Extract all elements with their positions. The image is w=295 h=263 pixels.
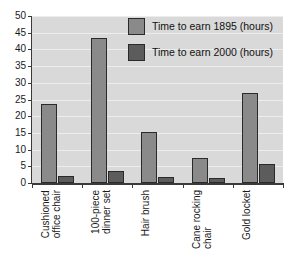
chart-legend: Time to earn 1895 (hours) Time to earn 2…	[128, 18, 273, 70]
y-axis-tick-label: 45	[0, 28, 26, 38]
legend-item: Time to earn 1895 (hours)	[128, 18, 273, 35]
y-axis-tick-mark	[28, 49, 32, 50]
y-axis-tick-mark	[28, 133, 32, 134]
y-axis-tick-label: 5	[0, 161, 26, 171]
legend-swatch-2000-icon	[128, 44, 145, 61]
bar	[108, 171, 124, 183]
y-axis-tick-mark	[28, 33, 32, 34]
y-axis-tick-mark	[28, 166, 32, 167]
bar-chart: 05101520253035404550 Cushioned office ch…	[0, 0, 295, 263]
legend-swatch-1895-icon	[128, 18, 145, 35]
y-axis-tick-label: 40	[0, 44, 26, 54]
x-axis-label: Gold locket	[241, 190, 252, 240]
y-axis-tick-label: 35	[0, 61, 26, 71]
y-axis-tick-mark	[28, 150, 32, 151]
y-axis-tick-label: 25	[0, 95, 26, 105]
y-axis-tick-mark	[28, 66, 32, 67]
x-axis-tick-mark	[82, 183, 83, 188]
y-axis-tick-mark	[28, 83, 32, 84]
x-axis-label: Cushioned office chair	[40, 190, 62, 238]
bar	[259, 164, 275, 183]
y-axis-tick-label: 0	[0, 178, 26, 188]
bar	[41, 104, 57, 183]
bar	[58, 176, 74, 183]
x-axis-tick-mark	[132, 183, 133, 188]
x-axis-line	[32, 183, 283, 185]
y-axis-tick-mark	[28, 16, 32, 17]
legend-label-2000: Time to earn 2000 (hours)	[152, 47, 273, 58]
bar	[192, 158, 208, 183]
x-axis-label: 100-piece dinner set	[90, 190, 112, 234]
x-axis-tick-mark	[233, 183, 234, 188]
y-axis-tick-mark	[28, 116, 32, 117]
y-axis-tick-label: 20	[0, 111, 26, 121]
x-axis-label: Cane rocking chair	[191, 190, 213, 249]
y-axis-tick-mark	[28, 100, 32, 101]
bar	[91, 38, 107, 183]
y-axis-tick-label: 10	[0, 145, 26, 155]
x-axis-tick-mark	[183, 183, 184, 188]
x-axis-label: Hair brush	[140, 190, 151, 236]
bar	[141, 132, 157, 183]
legend-item: Time to earn 2000 (hours)	[128, 44, 273, 61]
y-axis-tick-label: 30	[0, 78, 26, 88]
x-axis-tick-mark	[32, 183, 33, 188]
y-axis-tick-label: 15	[0, 128, 26, 138]
bar	[242, 93, 258, 183]
legend-label-1895: Time to earn 1895 (hours)	[152, 21, 273, 32]
x-axis-tick-mark	[283, 183, 284, 188]
y-axis-tick-label: 50	[0, 11, 26, 21]
